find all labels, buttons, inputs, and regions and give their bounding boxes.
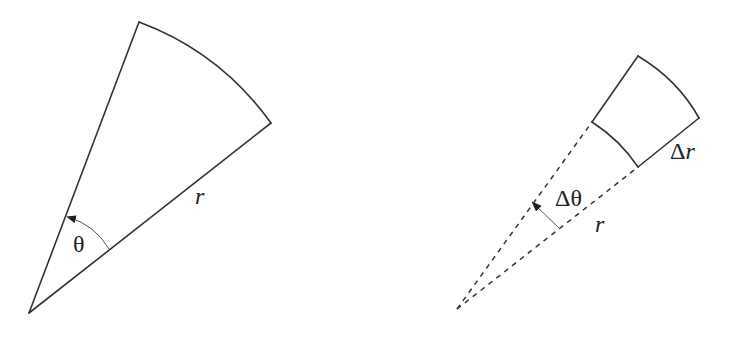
dashed-upper-ray: [457, 122, 592, 309]
delta-theta-label: Δθ: [555, 185, 582, 211]
dashed-lower-ray: [457, 167, 638, 309]
element-outer-arc: [638, 56, 699, 118]
theta-label: θ: [73, 231, 85, 257]
delta-r-label: Δr: [670, 138, 695, 164]
polar-diagram: θ r Δθ r Δr: [0, 0, 732, 339]
sector-arc: [139, 22, 271, 123]
radius-label-right: r: [595, 211, 605, 237]
element-upper-edge: [592, 56, 638, 122]
area-element-figure: Δθ r Δr: [457, 56, 699, 309]
radius-label: r: [195, 183, 205, 209]
sector-figure: θ r: [29, 22, 271, 313]
element-inner-arc: [592, 122, 638, 167]
